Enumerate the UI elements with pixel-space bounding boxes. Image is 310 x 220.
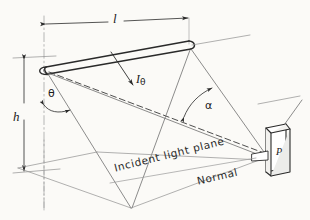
intensity-label: Iθ	[136, 73, 146, 87]
ray-i-theta	[111, 52, 133, 85]
intensity-subscript: θ	[140, 77, 146, 87]
ceiling-mount-line	[192, 35, 250, 45]
light-cone-edges	[48, 49, 264, 208]
angle-alpha-label: α	[205, 100, 212, 111]
receiving-plate	[252, 124, 290, 176]
angle-theta-label: θ	[48, 88, 55, 99]
arc-theta	[44, 105, 70, 112]
height-label: h	[13, 110, 20, 123]
figure-canvas: l h Iθ θ α P Incident light plane Normal	[0, 0, 310, 220]
length-dimension-line	[46, 18, 188, 24]
diagram-vector-layer	[0, 0, 310, 220]
point-p-label: P	[276, 147, 282, 157]
length-label: l	[113, 12, 117, 25]
lamp-tube	[40, 41, 195, 75]
